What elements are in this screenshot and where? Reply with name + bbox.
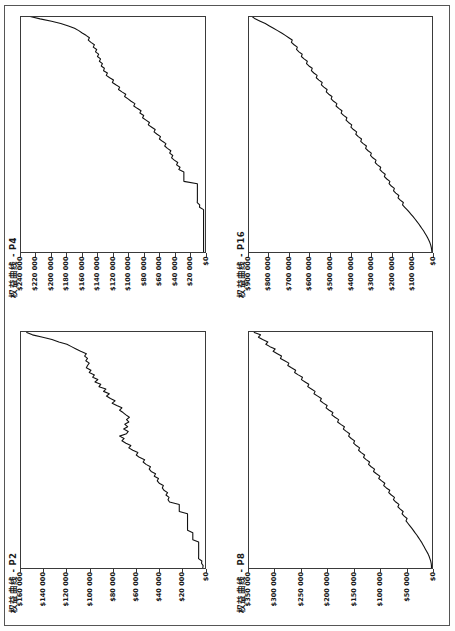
chart-cell-p2: 权益曲线 - P2 $160 000$140 000$120 000$100 0… <box>0 316 228 631</box>
y-tick-label: $0 <box>202 572 210 581</box>
chart-cell-p16: 权益曲线 - P16 $900 000$800 000$700 000$600 … <box>228 0 455 316</box>
y-tick-mark <box>43 569 44 573</box>
y-tick-mark <box>206 254 207 258</box>
y-tick-mark <box>190 254 191 258</box>
y-tick-label: $200 000 <box>388 257 396 291</box>
y-tick-label: $200 000 <box>323 572 331 606</box>
y-tick-label: $100 000 <box>124 257 132 291</box>
y-tick-label: $250 000 <box>297 572 305 606</box>
y-tick-mark <box>327 569 328 573</box>
y-tick-label: $120 000 <box>109 257 117 291</box>
figure-sheet: 权益曲线 - P2 $160 000$140 000$120 000$100 0… <box>0 0 455 631</box>
y-tick-mark <box>66 254 67 258</box>
y-tick-label: $0 <box>429 257 437 266</box>
y-tick-mark <box>66 569 67 573</box>
y-tick-label: $140 000 <box>39 572 47 606</box>
y-tick-label: $700 000 <box>285 257 293 291</box>
equity-curve-p8 <box>249 333 433 569</box>
equity-curve-p16 <box>249 17 433 253</box>
y-tick-label: $20 000 <box>178 572 186 602</box>
y-tick-mark <box>330 254 331 258</box>
y-tick-mark <box>274 569 275 573</box>
y-tick-label: $300 000 <box>270 572 278 606</box>
y-tick-label: $20 000 <box>186 257 194 287</box>
y-tick-mark <box>113 569 114 573</box>
y-tick-label: $50 000 <box>403 572 411 602</box>
plot-area-p8 <box>248 332 434 570</box>
y-tick-label: $40 000 <box>171 257 179 287</box>
y-tick-mark <box>289 254 290 258</box>
chart-cell-p8: 权益曲线 - P8 $350 000$300 000$250 000$200 0… <box>228 316 455 631</box>
y-tick-label: $400 000 <box>347 257 355 291</box>
y-tick-label: $100 000 <box>376 572 384 606</box>
plot-area-p16 <box>248 16 434 254</box>
y-tick-label: $140 000 <box>93 257 101 291</box>
y-tick-label: $0 <box>429 572 437 581</box>
y-tick-mark <box>268 254 269 258</box>
y-tick-mark <box>20 569 21 573</box>
plot-area-p4 <box>20 16 206 254</box>
y-tick-label: $200 000 <box>47 257 55 291</box>
y-tick-label: $40 000 <box>155 572 163 602</box>
y-tick-mark <box>433 254 434 258</box>
equity-curve-p2 <box>21 333 205 569</box>
y-tick-mark <box>159 254 160 258</box>
y-tick-mark <box>144 254 145 258</box>
y-tick-mark <box>248 569 249 573</box>
y-tick-label: $300 000 <box>367 257 375 291</box>
y-tick-label: $160 000 <box>16 572 24 606</box>
y-tick-mark <box>128 254 129 258</box>
y-tick-label: $100 000 <box>408 257 416 291</box>
y-axis-p8: $350 000$300 000$250 000$200 000$150 000… <box>248 569 434 631</box>
y-axis-p16: $900 000$800 000$700 000$600 000$500 000… <box>248 254 434 316</box>
y-tick-label: $800 000 <box>264 257 272 291</box>
equity-curve-p4 <box>21 17 205 253</box>
chart-cell-p4: 权益曲线 - P4 $240 000$220 000$200 000$180 0… <box>0 0 228 316</box>
y-tick-mark <box>371 254 372 258</box>
y-tick-mark <box>136 569 137 573</box>
y-tick-label: $0 <box>202 257 210 266</box>
y-tick-mark <box>301 569 302 573</box>
y-tick-mark <box>51 254 52 258</box>
y-tick-label: $120 000 <box>62 572 70 606</box>
y-tick-mark <box>392 254 393 258</box>
y-tick-label: $220 000 <box>31 257 39 291</box>
y-tick-mark <box>97 254 98 258</box>
y-tick-mark <box>351 254 352 258</box>
y-tick-label: $350 000 <box>244 572 252 606</box>
y-tick-label: $500 000 <box>326 257 334 291</box>
y-tick-label: $180 000 <box>62 257 70 291</box>
y-tick-mark <box>309 254 310 258</box>
y-tick-label: $150 000 <box>350 572 358 606</box>
y-tick-mark <box>175 254 176 258</box>
y-tick-label: $80 000 <box>140 257 148 287</box>
y-tick-mark <box>159 569 160 573</box>
y-tick-mark <box>407 569 408 573</box>
y-tick-mark <box>35 254 36 258</box>
y-tick-mark <box>433 569 434 573</box>
y-tick-mark <box>20 254 21 258</box>
y-tick-mark <box>206 569 207 573</box>
y-tick-label: $240 000 <box>16 257 24 291</box>
y-tick-label: $160 000 <box>78 257 86 291</box>
y-tick-mark <box>113 254 114 258</box>
y-axis-p2: $160 000$140 000$120 000$100 000$80 000$… <box>20 569 206 631</box>
y-tick-mark <box>182 569 183 573</box>
chart-grid: 权益曲线 - P2 $160 000$140 000$120 000$100 0… <box>0 0 455 631</box>
y-tick-label: $600 000 <box>305 257 313 291</box>
y-tick-label: $60 000 <box>132 572 140 602</box>
y-tick-mark <box>90 569 91 573</box>
y-tick-mark <box>354 569 355 573</box>
y-tick-label: $100 000 <box>86 572 94 606</box>
y-tick-mark <box>380 569 381 573</box>
y-tick-mark <box>412 254 413 258</box>
y-tick-mark <box>82 254 83 258</box>
plot-area-p2 <box>20 332 206 570</box>
y-tick-label: $60 000 <box>155 257 163 287</box>
y-axis-p4: $240 000$220 000$200 000$180 000$160 000… <box>20 254 206 316</box>
rotated-figure-wrapper: 权益曲线 - P2 $160 000$140 000$120 000$100 0… <box>0 0 455 631</box>
y-tick-label: $900 000 <box>244 257 252 291</box>
y-tick-label: $80 000 <box>109 572 117 602</box>
scanned-page: 权益曲线 - P2 $160 000$140 000$120 000$100 0… <box>0 0 455 631</box>
y-tick-mark <box>248 254 249 258</box>
